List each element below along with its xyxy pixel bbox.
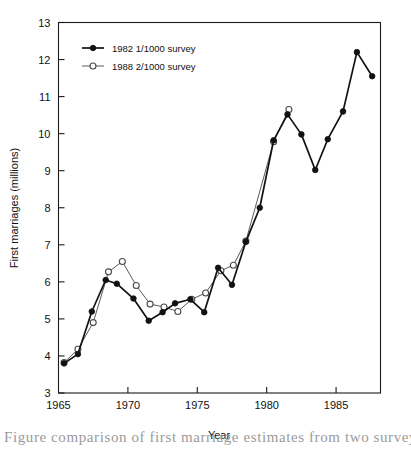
y-tick-label: 12 xyxy=(38,54,50,66)
data-point xyxy=(119,258,125,264)
data-point xyxy=(230,262,236,268)
data-point xyxy=(160,309,166,315)
data-point xyxy=(103,277,109,283)
y-tick-label: 4 xyxy=(44,350,50,362)
y-tick-label: 7 xyxy=(44,239,50,251)
data-point xyxy=(147,301,153,307)
legend-label-1: 1982 1/1000 survey xyxy=(112,43,196,54)
data-point xyxy=(340,109,346,115)
x-tick-label: 1985 xyxy=(324,399,348,411)
y-tick-label: 10 xyxy=(38,128,50,140)
data-point xyxy=(131,296,137,302)
data-point xyxy=(188,296,194,302)
x-tick-label: 1970 xyxy=(116,399,140,411)
data-point xyxy=(89,309,95,315)
data-point xyxy=(201,309,207,315)
data-point xyxy=(271,138,277,144)
y-tick-label: 9 xyxy=(44,165,50,177)
data-point xyxy=(175,308,181,314)
data-point xyxy=(61,361,67,367)
data-point xyxy=(203,290,209,296)
chart-figure: 345678910111213 19651970197519801985 Yea… xyxy=(0,0,411,451)
data-point xyxy=(133,283,139,289)
data-point xyxy=(299,132,305,138)
legend-swatch-marker-2 xyxy=(90,63,96,69)
legend-label-2: 1988 2/1000 survey xyxy=(112,61,196,72)
y-tick-label: 3 xyxy=(44,387,50,399)
first-marriages-line-chart: 345678910111213 19651970197519801985 Yea… xyxy=(0,0,411,451)
data-point xyxy=(105,269,111,275)
y-tick-label: 11 xyxy=(39,91,50,103)
x-tick-label: 1965 xyxy=(46,399,70,411)
chart-background xyxy=(0,0,411,451)
data-point xyxy=(354,49,360,55)
data-point xyxy=(75,351,81,357)
data-point xyxy=(90,320,96,326)
data-point xyxy=(257,205,263,211)
y-tick-label: 13 xyxy=(38,17,50,29)
data-point xyxy=(243,239,249,245)
data-point xyxy=(285,112,291,118)
data-point xyxy=(172,301,178,307)
data-point xyxy=(312,167,318,173)
data-point xyxy=(114,281,120,287)
x-tick-label: 1975 xyxy=(185,399,209,411)
y-tick-label: 6 xyxy=(44,276,50,288)
y-tick-label: 5 xyxy=(44,313,50,325)
data-point xyxy=(325,136,331,142)
data-point xyxy=(215,265,221,271)
y-axis-title: First marriages (millions) xyxy=(8,148,20,268)
data-point xyxy=(229,282,235,288)
legend-swatch-marker-1 xyxy=(90,45,96,51)
y-tick-label: 8 xyxy=(44,202,50,214)
data-point xyxy=(146,318,152,324)
x-axis-title: Year xyxy=(208,429,231,441)
x-tick-label: 1980 xyxy=(254,399,278,411)
data-point xyxy=(369,73,375,79)
